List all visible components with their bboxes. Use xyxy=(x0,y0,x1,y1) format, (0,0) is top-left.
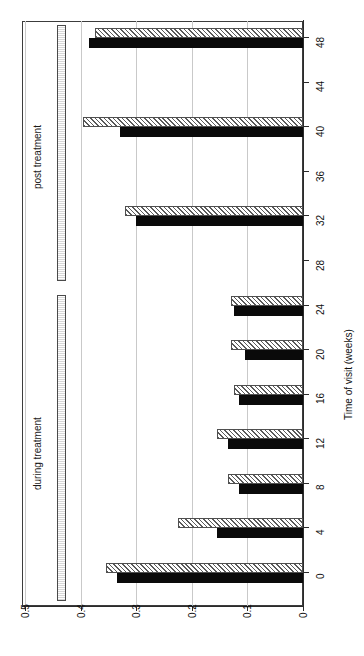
category-tick-28 xyxy=(304,260,309,261)
category-tick-label-12: 12 xyxy=(315,438,326,449)
value-tick-label-0.5: 0.5 xyxy=(20,604,31,618)
category-tick-label-16: 16 xyxy=(315,393,326,404)
category-tick-label-20: 20 xyxy=(315,349,326,360)
value-tick-label-0.3: 0.3 xyxy=(131,604,142,618)
period-bracket-during xyxy=(57,295,66,601)
bar-hatched-week-24 xyxy=(231,296,303,306)
category-tick-36 xyxy=(304,171,309,172)
category-tick-40 xyxy=(304,126,309,127)
period-bracket-post xyxy=(57,25,66,281)
gridline xyxy=(25,21,26,606)
chart-figure: 04812162024283236404448Time of visit (we… xyxy=(0,0,364,656)
category-tick-label-36: 36 xyxy=(315,170,326,181)
category-tick-16 xyxy=(304,394,309,395)
bar-hatched-week-0 xyxy=(106,563,303,573)
period-label-during: during treatment xyxy=(32,417,43,490)
category-tick-label-4: 4 xyxy=(315,529,326,535)
category-axis-line xyxy=(303,20,304,607)
bar-solid-week-40 xyxy=(120,127,303,137)
value-tick-0 xyxy=(303,606,304,611)
bar-hatched-week-16 xyxy=(234,385,304,395)
value-tick-label-0.1: 0.1 xyxy=(242,604,253,618)
category-tick-8 xyxy=(304,483,309,484)
bar-solid-week-12 xyxy=(228,439,303,449)
value-tick-label-0: 0 xyxy=(298,612,309,618)
bar-hatched-week-32 xyxy=(125,206,303,216)
category-tick-12 xyxy=(304,438,309,439)
gridline xyxy=(136,21,137,606)
category-tick-label-24: 24 xyxy=(315,304,326,315)
category-tick-32 xyxy=(304,215,309,216)
bar-hatched-week-20 xyxy=(231,340,303,350)
bar-solid-week-32 xyxy=(136,216,303,226)
category-tick-44 xyxy=(304,82,309,83)
category-tick-label-28: 28 xyxy=(315,260,326,271)
bar-solid-week-48 xyxy=(89,38,303,48)
category-tick-label-8: 8 xyxy=(315,485,326,491)
category-tick-0 xyxy=(304,572,309,573)
bar-solid-week-4 xyxy=(217,528,303,538)
bar-solid-week-24 xyxy=(234,306,304,316)
category-tick-label-40: 40 xyxy=(315,126,326,137)
gridline xyxy=(81,21,82,606)
category-tick-24 xyxy=(304,305,309,306)
bar-solid-week-8 xyxy=(239,484,303,494)
bar-solid-week-0 xyxy=(117,573,303,583)
category-tick-label-48: 48 xyxy=(315,37,326,48)
bar-solid-week-20 xyxy=(245,350,303,360)
period-label-post: post treatment xyxy=(32,125,43,189)
category-tick-label-0: 0 xyxy=(315,574,326,580)
bar-hatched-week-4 xyxy=(178,518,303,528)
bar-hatched-week-12 xyxy=(217,429,303,439)
value-axis-line xyxy=(22,606,304,607)
value-tick-label-0.2: 0.2 xyxy=(187,604,198,618)
bar-hatched-week-40 xyxy=(83,117,303,127)
category-tick-48 xyxy=(304,37,309,38)
bar-solid-week-16 xyxy=(239,395,303,405)
bar-hatched-week-48 xyxy=(95,28,304,38)
category-tick-label-32: 32 xyxy=(315,215,326,226)
category-tick-label-44: 44 xyxy=(315,81,326,92)
category-axis-title: Time of visit (weeks) xyxy=(343,329,354,420)
category-tick-4 xyxy=(304,527,309,528)
bar-hatched-week-8 xyxy=(228,474,303,484)
category-tick-20 xyxy=(304,349,309,350)
value-tick-label-0.4: 0.4 xyxy=(76,604,87,618)
